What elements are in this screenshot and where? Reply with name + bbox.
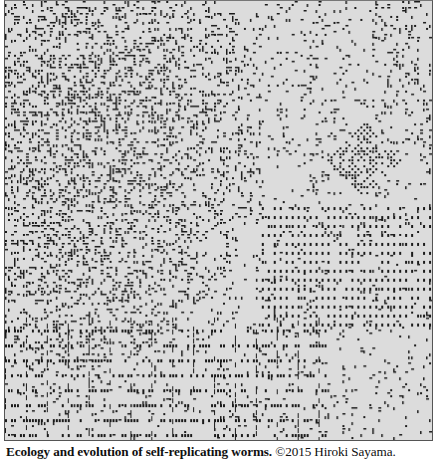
copyright-symbol: ©: [275, 444, 285, 459]
worm-simulation-canvas: [5, 1, 432, 440]
simulation-figure: [4, 0, 433, 441]
caption-title: Ecology and evolution of self-replicatin…: [6, 444, 272, 459]
figure-caption: Ecology and evolution of self-replicatin…: [6, 444, 439, 460]
caption-credit: 2015 Hiroki Sayama.: [285, 444, 396, 459]
